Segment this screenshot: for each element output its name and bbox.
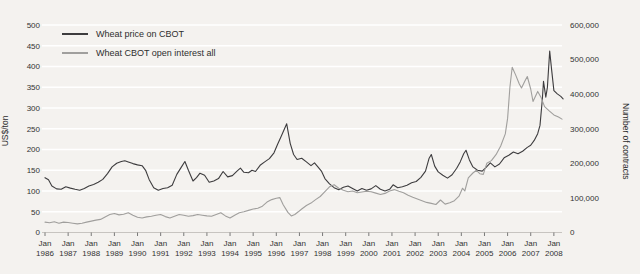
y-right-tick-label: 200,000 <box>570 159 599 168</box>
y-right-tick-label: 0 <box>570 228 575 237</box>
x-tick-label-year: 1993 <box>198 249 216 258</box>
x-tick-label-month: Jan <box>247 239 260 248</box>
x-tick-label-month: Jan <box>293 239 306 248</box>
x-tick-label-year: 2005 <box>476 249 494 258</box>
open-interest-line-swatch <box>62 52 88 54</box>
y-left-tick-label: 350 <box>27 83 41 92</box>
y-left-tick-label: 300 <box>27 104 41 113</box>
x-tick-label-month: Jan <box>154 239 167 248</box>
x-tick-label-year: 2006 <box>499 249 517 258</box>
x-tick-label-month: Jan <box>547 239 560 248</box>
x-tick-label-month: Jan <box>501 239 514 248</box>
x-tick-label-month: Jan <box>177 239 190 248</box>
legend-label-price: Wheat price on CBOT <box>96 29 184 39</box>
x-tick-label-month: Jan <box>455 239 468 248</box>
x-tick-label-year: 2002 <box>406 249 424 258</box>
legend-item-price: Wheat price on CBOT <box>62 27 215 41</box>
y-left-tick-label: 400 <box>27 62 41 71</box>
y-left-tick-label: 50 <box>31 208 40 217</box>
x-tick-label-month: Jan <box>108 239 121 248</box>
x-tick-label-month: Jan <box>131 239 144 248</box>
x-tick-label-month: Jan <box>224 239 237 248</box>
x-tick-label-month: Jan <box>409 239 422 248</box>
x-tick-label-year: 2003 <box>429 249 447 258</box>
x-tick-label-year: 1988 <box>82 249 100 258</box>
y-left-tick-label: 450 <box>27 42 41 51</box>
legend-label-open-interest: Wheat CBOT open interest all <box>96 48 215 58</box>
x-tick-label-year: 1998 <box>314 249 332 258</box>
y-axis-title-right: Number of contracts <box>621 103 631 163</box>
wheat-chart-figure: Jan1986Jan1987Jan1988Jan1989Jan1990Jan19… <box>0 0 640 274</box>
y-right-tick-label: 400,000 <box>570 90 599 99</box>
x-tick-label-year: 1995 <box>244 249 262 258</box>
x-tick-label-year: 1999 <box>337 249 355 258</box>
x-tick-label-month: Jan <box>524 239 537 248</box>
x-tick-label-year: 1997 <box>291 249 309 258</box>
x-tick-label-month: Jan <box>316 239 329 248</box>
x-tick-label-month: Jan <box>85 239 98 248</box>
x-tick-label-month: Jan <box>339 239 352 248</box>
y-right-tick-label: 500,000 <box>570 55 599 64</box>
x-tick-label-month: Jan <box>385 239 398 248</box>
x-tick-label-year: 1990 <box>129 249 147 258</box>
x-tick-label-year: 1992 <box>175 249 193 258</box>
x-tick-label-year: 2000 <box>360 249 378 258</box>
x-tick-label-year: 2001 <box>383 249 401 258</box>
x-tick-label-month: Jan <box>478 239 491 248</box>
open-interest-line-series <box>45 67 562 224</box>
x-tick-label-month: Jan <box>39 239 52 248</box>
x-tick-label-year: 1989 <box>105 249 123 258</box>
price-line-swatch <box>62 33 88 35</box>
x-tick-label-month: Jan <box>62 239 75 248</box>
y-right-tick-label: 100,000 <box>570 194 599 203</box>
y-left-tick-label: 250 <box>27 125 41 134</box>
x-tick-label-month: Jan <box>270 239 283 248</box>
x-tick-label-year: 1986 <box>36 249 54 258</box>
legend-item-open-interest: Wheat CBOT open interest all <box>62 46 215 60</box>
x-tick-label-year: 1991 <box>152 249 170 258</box>
y-left-tick-label: 200 <box>27 145 41 154</box>
y-right-tick-label: 600,000 <box>570 21 599 30</box>
y-left-tick-label: 150 <box>27 166 41 175</box>
x-tick-label-month: Jan <box>362 239 375 248</box>
x-tick-label-month: Jan <box>200 239 213 248</box>
y-right-tick-label: 300,000 <box>570 125 599 134</box>
y-axis-title-left: US$/ton <box>0 109 10 153</box>
x-tick-label-year: 2008 <box>545 249 563 258</box>
x-tick-label-year: 1994 <box>221 249 239 258</box>
y-left-tick-label: 100 <box>27 187 41 196</box>
x-tick-label-year: 1996 <box>267 249 285 258</box>
y-left-tick-label: 500 <box>27 21 41 30</box>
x-tick-label-year: 2007 <box>522 249 540 258</box>
x-tick-label-year: 1987 <box>59 249 77 258</box>
y-left-tick-label: 0 <box>36 228 41 237</box>
chart-legend: Wheat price on CBOT Wheat CBOT open inte… <box>62 27 215 65</box>
x-tick-label-month: Jan <box>432 239 445 248</box>
x-tick-label-year: 2004 <box>452 249 470 258</box>
